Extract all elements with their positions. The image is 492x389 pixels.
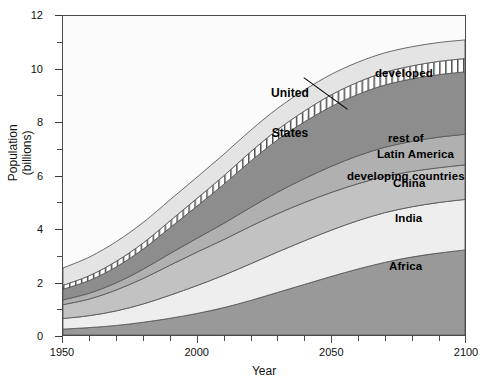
y-tick-label: 4 — [37, 223, 43, 235]
x-tick — [412, 336, 413, 341]
y-tick — [55, 69, 62, 70]
x-tick — [465, 336, 466, 343]
x-tick-label: 2000 — [184, 346, 208, 358]
y-axis-ticks — [45, 15, 62, 336]
x-tick — [331, 336, 332, 343]
x-tick-label: 2100 — [454, 346, 478, 358]
population-stacked-area-figure: 024681012 Population (billions) United S… — [0, 0, 492, 389]
x-tick-label: 2050 — [319, 346, 343, 358]
y-tick — [55, 15, 62, 16]
y-tick-label: 10 — [31, 63, 43, 75]
y-tick-label: 12 — [31, 9, 43, 21]
x-tick — [439, 336, 440, 341]
us-label-line1: United — [271, 87, 309, 100]
band-label-united-states: United States — [271, 60, 309, 168]
y-tick — [55, 283, 62, 284]
y-tick-label: 8 — [37, 116, 43, 128]
y-axis-title-line2: (billions) — [21, 88, 35, 218]
y-tick — [55, 176, 62, 177]
y-tick-label: 6 — [37, 170, 43, 182]
y-tick-label: 2 — [37, 277, 43, 289]
y-axis-title-line1: Population — [7, 88, 21, 218]
x-tick — [143, 336, 144, 341]
x-tick — [170, 336, 171, 341]
x-axis-tick-labels: 1950200020502100 — [62, 346, 466, 362]
x-tick-label: 1950 — [50, 346, 74, 358]
x-tick — [62, 336, 63, 343]
x-tick — [224, 336, 225, 341]
band-label-india: India — [395, 212, 422, 225]
band-label-latin-america: Latin America — [377, 148, 454, 161]
x-tick — [358, 336, 359, 341]
y-tick-label: 0 — [37, 330, 43, 342]
x-tick — [385, 336, 386, 341]
band-label-developed: developed — [375, 67, 433, 80]
band-label-africa: Africa — [389, 260, 422, 273]
y-tick — [55, 229, 62, 230]
y-tick — [55, 122, 62, 123]
rest-dev-line1: rest of — [347, 132, 465, 145]
us-label-line2: States — [271, 127, 309, 140]
x-axis-title: Year — [62, 364, 466, 378]
y-tick — [55, 336, 62, 337]
plot-area: United States developed rest of developi… — [62, 15, 466, 336]
x-tick — [89, 336, 90, 341]
x-tick — [197, 336, 198, 343]
x-tick — [251, 336, 252, 341]
x-tick — [277, 336, 278, 341]
x-tick — [116, 336, 117, 341]
band-label-china: China — [393, 177, 425, 190]
x-axis-ticks — [62, 336, 466, 345]
x-tick — [304, 336, 305, 341]
y-axis-title: Population (billions) — [7, 88, 35, 218]
